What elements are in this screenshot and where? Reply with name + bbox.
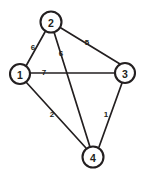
edge-weight-label-1-2: 6: [31, 43, 36, 52]
edges-group: [26, 28, 122, 148]
graph-edge-1-2: [26, 32, 45, 66]
graph-node-label-1: 1: [17, 69, 23, 81]
edge-weight-label-1-4: 2: [50, 110, 55, 119]
graph-node-label-2: 2: [48, 17, 54, 29]
edge-weight-label-2-4: 6: [59, 49, 64, 58]
graph-node-label-4: 4: [90, 152, 96, 164]
edge-weight-label-2-3: 5: [85, 38, 90, 47]
graph-edge-3-4: [99, 83, 122, 147]
graph-node-label-3: 3: [122, 68, 128, 80]
graph-edge-1-4: [26, 82, 86, 148]
edge-weight-label-1-3: 7: [42, 68, 47, 77]
graph-edge-2-3: [61, 28, 120, 64]
edge-weight-label-3-4: 1: [104, 110, 109, 119]
graph-canvas: 656721 1234: [0, 0, 144, 174]
graph-diagram: 656721 1234: [0, 0, 144, 174]
